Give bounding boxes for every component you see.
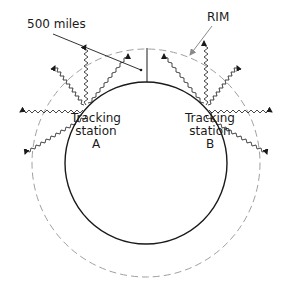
station-b-id: B	[175, 138, 245, 151]
signal-zigzag	[204, 41, 208, 105]
signal-zigzag	[208, 66, 238, 105]
distance-label: 500 miles	[27, 18, 86, 31]
rim-leader-arrow	[190, 26, 212, 55]
signal-zigzag	[84, 45, 88, 105]
distance-leader-dot	[140, 69, 143, 72]
tracking-diagram	[0, 0, 284, 303]
rim-label: RIM	[207, 11, 229, 24]
distance-leader-line	[53, 34, 141, 70]
station-a-label: Tracking station A	[61, 112, 131, 151]
station-a-id: A	[61, 138, 131, 151]
signal-zigzag	[164, 54, 204, 103]
station-b-label: Tracking station B	[175, 112, 245, 151]
signal-zigzag	[88, 54, 128, 103]
signal-zigzag	[54, 66, 84, 105]
earth-circle	[65, 82, 227, 244]
